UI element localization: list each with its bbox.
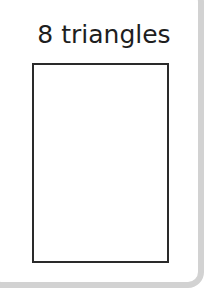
card-title: 8 triangles	[0, 18, 208, 52]
drawing-rectangle	[32, 63, 169, 263]
